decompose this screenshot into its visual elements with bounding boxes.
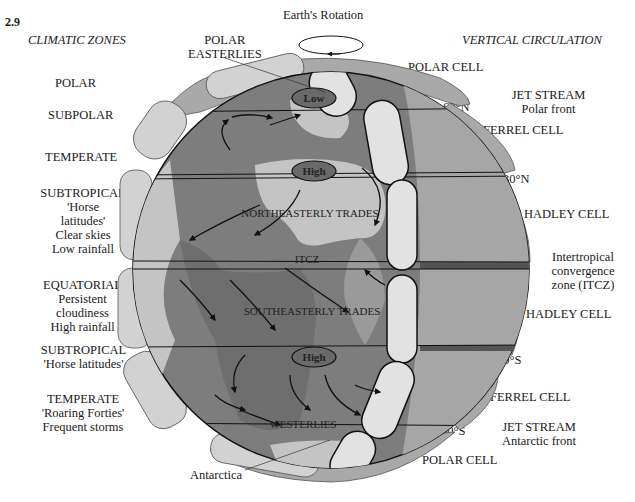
itcz-map-label: ITCZ [295, 253, 320, 265]
high-label-north: High [302, 165, 325, 177]
globe-diagram: Low High High NORTHEASTERLY TRADES ITCZ … [0, 0, 635, 502]
ne-trades-label: NORTHEASTERLY TRADES [241, 207, 378, 219]
se-trades-label: SOUTHEASTERLY TRADES [244, 305, 381, 317]
low-label: Low [304, 92, 325, 104]
rotation-arrow-icon [299, 36, 363, 54]
westerlies-label: WESTERLIES [269, 418, 336, 430]
high-label-south: High [302, 351, 325, 363]
